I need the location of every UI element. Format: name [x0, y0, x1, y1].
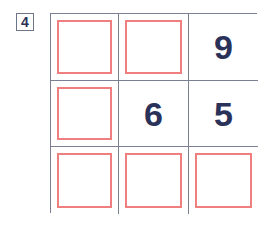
empty-cell-marker-icon	[195, 153, 252, 208]
puzzle-grid: 9 6 5	[50, 13, 257, 213]
grid-cell-value: 5	[214, 97, 233, 131]
grid-cell-r1c2[interactable]	[119, 14, 189, 81]
grid-cell-r3c1[interactable]	[51, 147, 119, 214]
grid-cell-r2c1[interactable]	[51, 81, 119, 147]
grid-cell-r1c3[interactable]: 9	[189, 14, 258, 81]
grid-cell-r2c3[interactable]: 5	[189, 81, 258, 147]
grid-cell-r2c2[interactable]: 6	[119, 81, 189, 147]
empty-cell-marker-icon	[57, 87, 112, 140]
figure-index-label: 4	[16, 13, 34, 31]
grid-cell-r3c3[interactable]	[189, 147, 258, 214]
figure-index-value: 4	[21, 15, 29, 29]
grid-cell-value: 6	[144, 97, 163, 131]
grid-cell-r3c2[interactable]	[119, 147, 189, 214]
empty-cell-marker-icon	[125, 153, 182, 208]
grid-cell-value: 9	[214, 30, 233, 64]
empty-cell-marker-icon	[57, 153, 112, 208]
puzzle-figure: 4 9 6 5	[0, 0, 271, 226]
empty-cell-marker-icon	[125, 20, 182, 74]
empty-cell-marker-icon	[57, 20, 112, 74]
grid-cell-r1c1[interactable]	[51, 14, 119, 81]
